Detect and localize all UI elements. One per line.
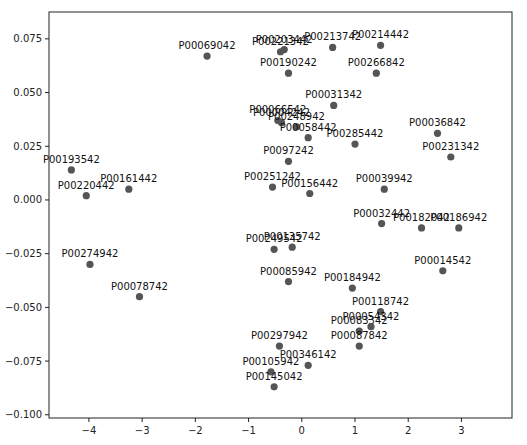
- data-point: P00156442: [281, 178, 338, 198]
- point-marker: [285, 70, 292, 77]
- point-label: P00069042: [179, 40, 236, 51]
- data-point: P00031342: [305, 89, 362, 109]
- point-marker: [447, 153, 454, 160]
- point-marker: [125, 186, 132, 193]
- point-marker: [203, 52, 210, 59]
- point-marker: [330, 102, 337, 109]
- point-label: P00231342: [422, 141, 479, 152]
- point-label: P00297942: [251, 330, 308, 341]
- point-marker: [373, 70, 380, 77]
- data-point: P00087842: [331, 330, 388, 350]
- point-label: P0097242: [263, 145, 314, 156]
- data-point: P00039942: [356, 173, 413, 193]
- point-marker: [305, 362, 312, 369]
- point-label: P00193542: [43, 154, 100, 165]
- point-label: P00087842: [331, 330, 388, 341]
- point-marker: [86, 261, 93, 268]
- x-axis-ticks: −4−3−2−10123: [82, 418, 465, 436]
- point-label: P00036842: [409, 117, 466, 128]
- data-point: P00054342: [343, 311, 400, 331]
- point-label: P00054342: [343, 311, 400, 322]
- point-label: P00248942: [268, 111, 325, 122]
- point-label: P00214442: [352, 29, 409, 40]
- data-point: P00266842: [348, 57, 405, 77]
- data-point: P0097242: [263, 145, 314, 165]
- point-label: P00078742: [111, 281, 168, 292]
- data-point: P00221342: [252, 36, 309, 56]
- point-marker: [349, 284, 356, 291]
- point-marker: [271, 246, 278, 253]
- point-label: P00285442: [327, 128, 384, 139]
- point-label: P00186942: [430, 212, 487, 223]
- y-tick-label: 0.000: [13, 194, 42, 205]
- point-label: P00105942: [242, 356, 299, 367]
- x-tick-label: −3: [135, 425, 150, 436]
- point-marker: [269, 183, 276, 190]
- scatter-plot: −4−3−2−10123 0.0750.0500.0250.000−0.025−…: [0, 0, 527, 445]
- point-marker: [434, 130, 441, 137]
- data-point: P00193542: [43, 154, 100, 174]
- y-tick-label: −0.100: [5, 409, 42, 420]
- x-tick-label: 0: [299, 425, 305, 436]
- data-point: P00145042: [246, 371, 303, 391]
- point-label: P00190242: [260, 57, 317, 68]
- y-tick-label: −0.025: [5, 248, 42, 259]
- data-point: P00085942: [260, 266, 317, 286]
- point-marker: [418, 224, 425, 231]
- point-label: P00031342: [305, 89, 362, 100]
- y-tick-label: 0.025: [13, 141, 42, 152]
- point-label: P00085942: [260, 266, 317, 277]
- data-point: P00069042: [179, 40, 236, 60]
- point-marker: [271, 383, 278, 390]
- x-tick-label: −4: [82, 425, 97, 436]
- point-label: P00156442: [281, 178, 338, 189]
- point-label: P00145042: [246, 371, 303, 382]
- data-point: P00220442: [58, 180, 115, 200]
- point-marker: [439, 267, 446, 274]
- y-tick-label: −0.075: [5, 356, 42, 367]
- point-marker: [381, 186, 388, 193]
- point-label: P00184942: [324, 272, 381, 283]
- y-tick-label: −0.050: [5, 302, 42, 313]
- point-marker: [378, 220, 385, 227]
- point-marker: [285, 278, 292, 285]
- point-marker: [305, 134, 312, 141]
- point-label: P00014542: [414, 255, 471, 266]
- data-point: P00184942: [324, 272, 381, 292]
- data-points: P00069042P00203442P00221342P00213742P002…: [43, 29, 487, 390]
- point-marker: [329, 44, 336, 51]
- data-point: P00214442: [352, 29, 409, 49]
- point-marker: [351, 141, 358, 148]
- data-point: P00231342: [422, 141, 479, 161]
- point-label: P00220442: [58, 180, 115, 191]
- point-label: P00135742: [264, 231, 321, 242]
- data-point: P00190242: [260, 57, 317, 77]
- point-label: P00221342: [252, 36, 309, 47]
- data-point: P00285442: [327, 128, 384, 148]
- point-label: P00274942: [62, 248, 119, 259]
- data-point: P00014542: [414, 255, 471, 275]
- point-marker: [306, 190, 313, 197]
- y-tick-label: 0.075: [13, 33, 42, 44]
- x-tick-label: 1: [352, 425, 358, 436]
- data-point: P00186942: [430, 212, 487, 232]
- point-marker: [455, 224, 462, 231]
- point-marker: [277, 48, 284, 55]
- data-point: P00036842: [409, 117, 466, 137]
- point-label: P00039942: [356, 173, 413, 184]
- data-point: P00078742: [111, 281, 168, 301]
- point-label: P00118742: [352, 296, 409, 307]
- data-point: P00297942: [251, 330, 308, 350]
- x-tick-label: 3: [458, 425, 464, 436]
- x-tick-label: −1: [241, 425, 256, 436]
- point-label: P00266842: [348, 57, 405, 68]
- x-tick-label: 2: [405, 425, 411, 436]
- point-marker: [83, 192, 90, 199]
- data-point: P00274942: [62, 248, 119, 268]
- point-marker: [289, 244, 296, 251]
- y-axis-ticks: 0.0750.0500.0250.000−0.025−0.050−0.075−0…: [5, 33, 49, 420]
- point-marker: [356, 342, 363, 349]
- point-marker: [377, 42, 384, 49]
- y-tick-label: 0.050: [13, 87, 42, 98]
- x-tick-label: −2: [188, 425, 203, 436]
